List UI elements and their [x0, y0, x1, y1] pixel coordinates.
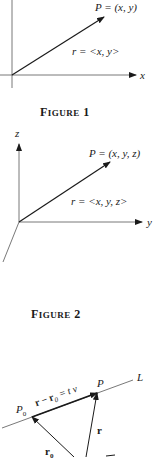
point-p-label: P	[97, 378, 104, 389]
caption-initial: F	[31, 307, 39, 321]
x-axis-label: x	[140, 70, 145, 81]
line-l-label: L	[137, 372, 143, 383]
x-axis	[3, 222, 19, 262]
z-axis-label: z	[15, 128, 19, 139]
vector-r-label: r = <x, y, z>	[71, 196, 128, 207]
figure-1-caption: FIGURE 1	[40, 106, 90, 118]
caption-smallcaps: IGURE	[39, 310, 71, 320]
vector-v-fragment	[106, 455, 115, 456]
caption-initial: F	[40, 105, 48, 119]
p0-letter: P	[16, 403, 23, 415]
vector-r-label: r	[97, 425, 102, 436]
vector-r-label: r = <x, y>	[72, 46, 119, 57]
vector-r0-label: r0	[45, 446, 53, 460]
position-vector	[19, 162, 110, 222]
caption-smallcaps: IGURE	[48, 108, 80, 118]
figure-1-diagram	[0, 0, 136, 88]
point-p-label: P = (x, y)	[95, 2, 137, 13]
caption-number: 2	[74, 307, 81, 321]
point-p0-label: P0	[16, 404, 26, 418]
caption-number: 1	[83, 105, 90, 119]
figure-2-caption: FIGURE 2	[31, 308, 81, 320]
point-p-label: P = (x, y, z)	[89, 148, 140, 159]
vector-r	[86, 393, 97, 457]
r0-subscript: 0	[50, 452, 54, 460]
p0-subscript: 0	[23, 410, 27, 418]
y-axis-label: y	[147, 217, 152, 228]
